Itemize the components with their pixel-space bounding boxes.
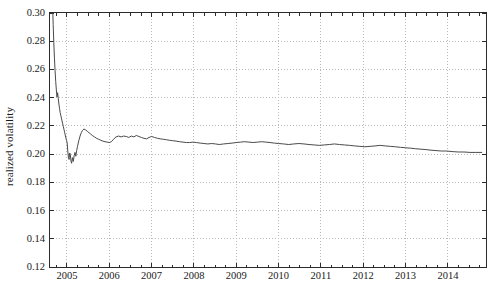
y-gridlines	[50, 41, 486, 239]
y-tick-label: 0.14	[13, 234, 45, 244]
y-tick-label: 0.20	[13, 149, 45, 159]
figure: realized volatility 0.120.140.160.180.20…	[0, 0, 498, 293]
y-tick-label: 0.22	[13, 121, 45, 131]
y-tick-label: 0.18	[13, 177, 45, 187]
chart-canvas	[50, 13, 486, 267]
y-tick-label: 0.30	[13, 8, 45, 18]
y-axis-tick-labels: 0.120.140.160.180.200.220.240.260.280.30	[11, 0, 45, 293]
x-axis-tick-labels: 2005200620072008200920102011201220132014	[0, 270, 498, 286]
y-tick-label: 0.26	[13, 64, 45, 74]
axis-ticks	[50, 13, 486, 267]
y-tick-label: 0.16	[13, 206, 45, 216]
y-tick-label: 0.28	[13, 36, 45, 46]
x-tick-label: 2014	[418, 270, 478, 281]
y-tick-label: 0.24	[13, 93, 45, 103]
x-gridlines	[67, 13, 448, 267]
plot-area	[49, 12, 487, 268]
data-series	[51, 13, 482, 163]
